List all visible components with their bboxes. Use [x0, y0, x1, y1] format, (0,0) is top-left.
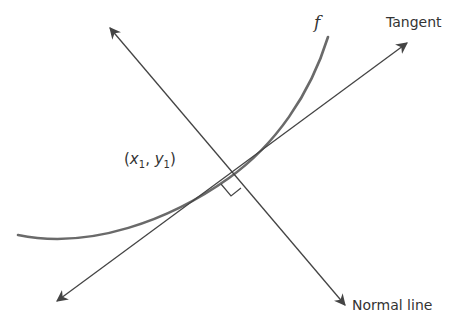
- point-label: (x1, y1): [124, 150, 176, 170]
- point-close-paren: ): [170, 150, 176, 168]
- point-x: x: [130, 150, 139, 168]
- function-curve: [18, 37, 328, 239]
- diagram-canvas: f Tangent Normal line (x1, y1): [0, 0, 465, 333]
- function-label: f: [314, 12, 320, 32]
- right-angle-marker: [221, 184, 241, 196]
- point-separator: ,: [145, 150, 155, 168]
- normal-line-label: Normal line: [352, 297, 432, 313]
- tangent-label: Tangent: [386, 14, 442, 30]
- point-y: y: [155, 150, 164, 168]
- diagram-svg: [0, 0, 465, 333]
